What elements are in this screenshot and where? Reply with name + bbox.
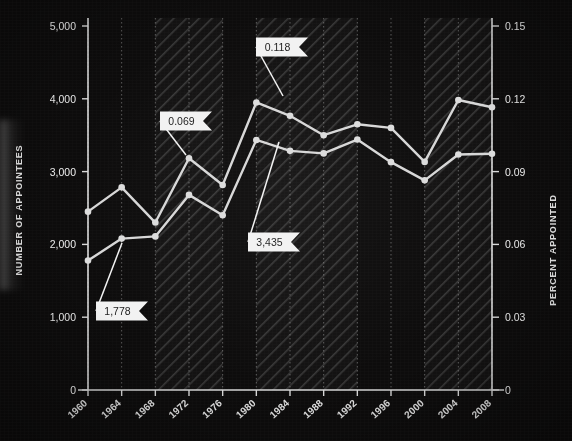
data-point-marker (287, 148, 294, 155)
x-axis-tick-label: 1964 (99, 397, 123, 420)
y-axis-right-tick-label: 0.06 (505, 238, 526, 250)
data-point-marker (85, 257, 92, 264)
x-axis-tick-label: 2000 (402, 397, 426, 420)
y-axis-left-tick-label: 3,000 (50, 166, 76, 178)
y-axis-right-tick-label: 0.09 (505, 166, 526, 178)
x-axis-tick-label: 1984 (267, 397, 291, 420)
x-axis-tick-label: 1968 (133, 397, 157, 420)
callout-label: 1,778 (104, 305, 130, 317)
data-point-marker (219, 182, 226, 189)
data-point-marker (118, 235, 125, 242)
x-axis-tick-label: 1988 (301, 397, 325, 420)
y-axis-left-tick-label: 2,000 (50, 238, 76, 250)
callout-label: 3,435 (256, 236, 282, 248)
data-point-marker (421, 177, 428, 184)
data-point-marker (253, 99, 260, 106)
x-axis-tick-label: 1960 (65, 397, 89, 420)
data-point-marker (421, 159, 428, 166)
callout-label: 0.118 (265, 41, 291, 53)
chart-figure: NUMBER OF APPOINTEES PERCENT APPOINTED 0… (0, 0, 572, 441)
callout-label: 0.069 (168, 115, 194, 127)
data-point-marker (354, 136, 361, 143)
data-point-marker (186, 155, 193, 162)
data-point-marker (85, 208, 92, 215)
chart-canvas: 01,0002,0003,0004,0005,000 00.030.060.09… (0, 0, 572, 441)
data-point-marker (455, 97, 462, 104)
data-point-marker (320, 132, 327, 139)
x-axis-tick-label: 1980 (234, 397, 258, 420)
data-point-marker (320, 150, 327, 157)
data-point-marker (388, 125, 395, 132)
x-axis-tick-label: 1976 (200, 397, 224, 420)
y-axis-right-tick-label: 0.15 (505, 20, 526, 32)
x-axis-tick-label: 1972 (166, 397, 190, 420)
film-light-leak (0, 120, 24, 290)
data-point-marker (287, 112, 294, 119)
data-point-marker (152, 233, 159, 240)
data-point-marker (455, 151, 462, 158)
y-axis-left-tick-label: 1,000 (50, 311, 76, 323)
data-point-marker (186, 192, 193, 199)
data-point-marker (388, 159, 395, 166)
x-axis-tick-label: 1992 (335, 397, 359, 420)
x-axis-tick-label: 2008 (469, 397, 493, 420)
y-axis-right-tick-label: 0 (505, 384, 511, 396)
data-point-marker (253, 137, 260, 144)
x-axis-tick-label: 2004 (436, 397, 460, 420)
x-axis-ticks: 1960196419681972197619801984198819921996… (65, 390, 493, 420)
y-axis-left-tick-label: 4,000 (50, 93, 76, 105)
data-point-marker (152, 219, 159, 226)
data-point-marker (489, 150, 496, 157)
y-axis-right-tick-label: 0.03 (505, 311, 526, 323)
y-axis-left-ticks: 01,0002,0003,0004,0005,000 (50, 20, 88, 396)
x-axis-tick-label: 1996 (368, 397, 392, 420)
y-axis-left-tick-label: 0 (70, 384, 76, 396)
data-point-marker (354, 121, 361, 128)
data-point-marker (219, 212, 226, 219)
y-axis-right-tick-label: 0.12 (505, 93, 526, 105)
data-point-marker (118, 184, 125, 191)
y-axis-left-tick-label: 5,000 (50, 20, 76, 32)
data-point-marker (489, 104, 496, 111)
y-axis-right-ticks: 00.030.060.090.120.15 (492, 20, 526, 396)
